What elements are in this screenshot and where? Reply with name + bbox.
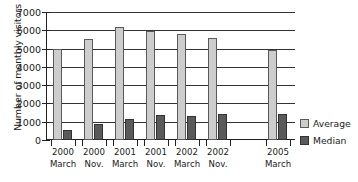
x-tick-label-line: March <box>174 159 200 171</box>
bar-average <box>177 34 186 140</box>
x-tick-label: 2005March <box>265 147 291 170</box>
x-tick-label: 2001March <box>112 147 138 170</box>
y-tick-label: 3000 <box>17 80 41 91</box>
bar-average <box>53 49 62 140</box>
x-tick-mark <box>230 140 231 146</box>
x-tick-label: 2000Nov. <box>83 147 105 170</box>
x-tick-label-line: 2005 <box>265 147 291 159</box>
x-tick-mark <box>168 140 169 146</box>
x-tick-mark <box>266 140 267 146</box>
bar-average <box>146 31 155 140</box>
x-tick-mark <box>113 140 114 146</box>
x-tick-mark <box>175 140 176 146</box>
bar-average <box>268 50 277 140</box>
x-tick-label-line: March <box>50 159 76 171</box>
bar-median <box>125 119 134 140</box>
x-tick-mark <box>51 140 52 146</box>
x-tick-mark <box>144 140 145 146</box>
bar-median <box>63 130 72 140</box>
x-tick-label-line: March <box>112 159 138 171</box>
x-tick-label-line: Nov. <box>207 159 229 171</box>
bar-group <box>53 12 73 140</box>
bar-average <box>115 27 124 140</box>
x-tick-label-line: 2001 <box>112 147 138 159</box>
legend-label: Average <box>313 118 351 129</box>
bar-chart: Number of monthly visitors 0100020003000… <box>0 0 358 182</box>
x-tick-label-line: 2000 <box>83 147 105 159</box>
y-tick-mark <box>42 67 50 68</box>
y-tick-label: 6000 <box>17 25 41 36</box>
y-tick-label: 2000 <box>17 98 41 109</box>
x-tick-label-line: 2000 <box>50 147 76 159</box>
bar-group <box>208 12 228 140</box>
y-tick-mark <box>42 85 50 86</box>
x-tick-label: 2002March <box>174 147 200 170</box>
legend-item-median[interactable]: Median <box>300 135 351 146</box>
bar-group <box>115 12 135 140</box>
legend-label: Median <box>313 135 346 146</box>
x-tick-label: 2002Nov. <box>207 147 229 170</box>
y-tick-mark <box>42 103 50 104</box>
bar-group <box>146 12 166 140</box>
legend-item-average[interactable]: Average <box>300 118 351 129</box>
x-tick-mark <box>199 140 200 146</box>
bar-median <box>278 114 287 141</box>
y-tick-mark <box>42 122 50 123</box>
y-tick-mark <box>42 140 50 141</box>
x-tick-label-line: Nov. <box>145 159 167 171</box>
x-tick-label-line: 2002 <box>174 147 200 159</box>
x-tick-mark <box>137 140 138 146</box>
x-tick-label: 2000March <box>50 147 76 170</box>
x-tick-label-line: 2002 <box>207 147 229 159</box>
y-tick-label: 7000 <box>17 7 41 18</box>
plot-area: 01000200030004000500060007000 2000March2… <box>46 12 295 140</box>
x-tick-mark <box>106 140 107 146</box>
y-tick-mark <box>42 49 50 50</box>
x-tick-mark <box>82 140 83 146</box>
bar-median <box>187 116 196 140</box>
x-tick-label: 2001Nov. <box>145 147 167 170</box>
bar-average <box>208 38 217 140</box>
x-tick-mark <box>75 140 76 146</box>
x-tick-mark <box>206 140 207 146</box>
bar-average <box>84 39 93 140</box>
chart-legend: AverageMedian <box>300 118 351 152</box>
y-tick-label: 1000 <box>17 116 41 127</box>
legend-swatch-average <box>300 119 309 128</box>
y-tick-label: 4000 <box>17 61 41 72</box>
plot-inner: 01000200030004000500060007000 2000March2… <box>46 12 295 140</box>
y-tick-label: 0 <box>35 135 41 146</box>
y-tick-mark <box>42 12 50 13</box>
x-tick-label-line: 2001 <box>145 147 167 159</box>
x-tick-mark <box>290 140 291 146</box>
y-tick-mark <box>42 30 50 31</box>
bar-group <box>84 12 104 140</box>
x-tick-label-line: March <box>265 159 291 171</box>
bar-group <box>268 12 288 140</box>
bar-median <box>156 115 165 140</box>
y-tick-label: 5000 <box>17 43 41 54</box>
bar-median <box>218 114 227 140</box>
legend-swatch-median <box>300 136 309 145</box>
bar-group <box>177 12 197 140</box>
x-tick-label-line: Nov. <box>83 159 105 171</box>
bar-median <box>94 124 103 140</box>
